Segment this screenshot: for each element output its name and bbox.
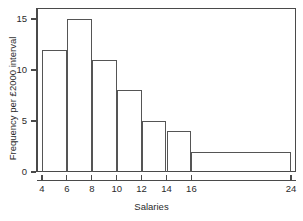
x-tick-mark <box>166 175 167 180</box>
y-tick-label: 5 <box>22 116 27 126</box>
x-tick-label: 4 <box>39 184 44 194</box>
histogram-bar <box>92 60 117 172</box>
x-tick-label: 6 <box>64 184 69 194</box>
histogram-bar <box>67 19 92 172</box>
y-tick-mark <box>31 120 36 121</box>
y-tick-label: 10 <box>16 65 27 75</box>
x-tick-mark <box>191 175 192 180</box>
y-tick-mark <box>31 171 36 172</box>
x-tick-label: 24 <box>286 184 297 194</box>
y-axis-line <box>36 8 37 172</box>
x-tick-mark <box>290 175 291 180</box>
histogram-bar <box>142 121 167 172</box>
histogram-bar <box>117 90 142 172</box>
x-tick-label: 14 <box>161 184 172 194</box>
x-tick-mark <box>66 175 67 180</box>
x-tick-label: 16 <box>186 184 197 194</box>
y-tick-label: 15 <box>16 14 27 24</box>
x-axis-title: Salaries <box>0 201 303 212</box>
x-axis-line <box>37 180 296 181</box>
histogram-bar <box>42 50 67 172</box>
histogram-chart: 051015 4681012141624 Frequency per £2000… <box>0 0 303 221</box>
x-tick-label: 8 <box>89 184 94 194</box>
histogram-bar <box>191 152 291 172</box>
x-tick-mark <box>141 175 142 180</box>
y-tick-label: 0 <box>22 167 27 177</box>
y-axis-title: Frequency per £2000 interval <box>7 24 18 174</box>
x-tick-mark <box>91 175 92 180</box>
y-tick-mark <box>31 69 36 70</box>
x-tick-label: 12 <box>136 184 147 194</box>
y-tick-mark <box>31 18 36 19</box>
histogram-bar <box>167 131 192 172</box>
x-tick-mark <box>41 175 42 180</box>
x-tick-mark <box>116 175 117 180</box>
x-tick-label: 10 <box>111 184 122 194</box>
bars-layer <box>37 8 296 172</box>
